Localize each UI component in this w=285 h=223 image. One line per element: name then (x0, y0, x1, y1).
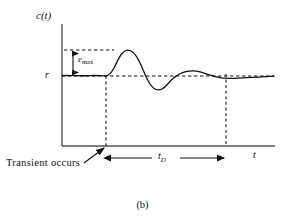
td-label-subscript: D (161, 156, 166, 164)
emax-label: emax (78, 55, 93, 64)
figure-caption: (b) (0, 200, 285, 211)
transient-pointer (84, 148, 104, 163)
figure-panel: c(t) r emax tD t Transient occurs (b) (0, 0, 285, 223)
y-axis-label: c(t) (36, 10, 51, 21)
transient-occurs-annotation: Transient occurs (6, 158, 80, 169)
td-label: tD (158, 151, 166, 161)
reference-label: r (45, 70, 49, 80)
emax-label-subscript: max (82, 58, 93, 65)
response-curve (62, 50, 274, 90)
x-axis-label: t (253, 150, 256, 160)
plot-canvas (0, 0, 285, 223)
